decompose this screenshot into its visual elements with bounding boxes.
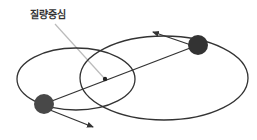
label-pointer-line	[55, 24, 104, 78]
body-top-right	[188, 35, 208, 55]
velocity-arrow-top	[153, 32, 191, 45]
orbit-diagram	[0, 0, 257, 140]
body-bottom-left	[34, 94, 54, 114]
velocity-arrow-bottom	[50, 110, 93, 127]
barycenter-dot	[103, 77, 107, 81]
body-connecting-line	[44, 45, 198, 104]
